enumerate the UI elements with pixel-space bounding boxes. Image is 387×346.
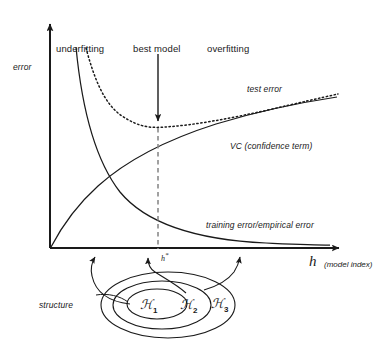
label-optimal-h: h* xyxy=(161,252,169,263)
label-overfitting: overfitting xyxy=(207,44,249,54)
structure-leader-line xyxy=(96,294,128,302)
hypothesis-class-2-subscript: 2 xyxy=(193,306,197,315)
vc-dimension-tradeoff-diagram: underfitting best model overfitting erro… xyxy=(0,0,387,346)
hypothesis-class-1-subscript: 1 xyxy=(153,306,157,315)
label-training-error: training error/empirical error xyxy=(206,221,314,230)
hypothesis-class-2-label: ℋ2 xyxy=(180,297,197,315)
pointer-arrow-class-2 xyxy=(148,258,186,293)
test-error-curve xyxy=(86,48,338,127)
label-vc-confidence-term: VC (confidence term) xyxy=(230,142,312,151)
hypothesis-class-3-label: ℋ3 xyxy=(211,296,228,314)
hypothesis-class-1-label: ℋ1 xyxy=(140,297,157,315)
label-test-error: test error xyxy=(247,85,282,94)
x-axis-note: (model index) xyxy=(324,261,372,269)
label-underfitting: underfitting xyxy=(56,44,104,54)
label-structure: structure xyxy=(39,301,73,310)
label-best-model: best model xyxy=(133,44,180,54)
optimal-h-star: * xyxy=(165,251,169,259)
x-axis-symbol: h xyxy=(309,254,317,269)
hypothesis-class-3-subscript: 3 xyxy=(224,305,228,314)
y-axis-label: error xyxy=(13,63,31,72)
